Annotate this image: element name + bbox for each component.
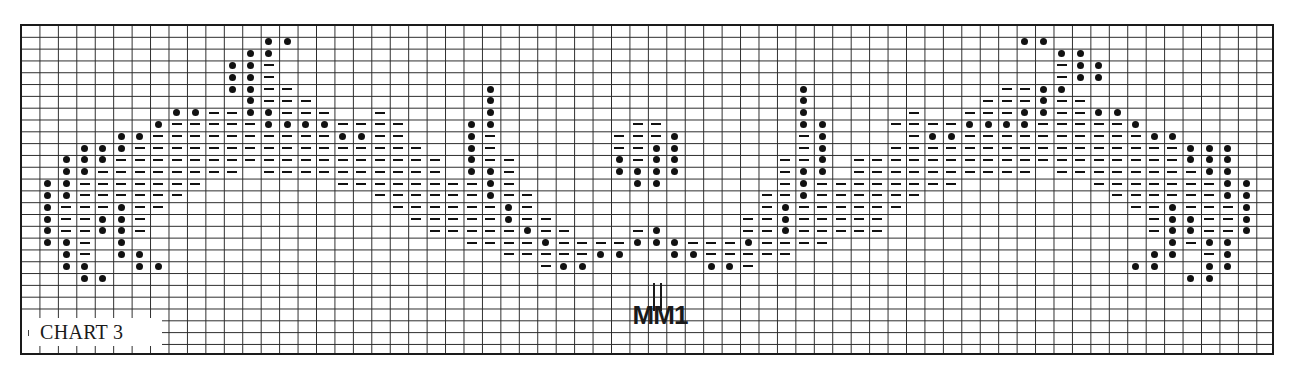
grid-cell [887, 154, 905, 166]
dash-symbol-icon [1057, 76, 1067, 78]
dash-symbol-icon [1131, 159, 1141, 161]
grid-cell [223, 59, 241, 71]
dash-symbol-icon [1057, 147, 1067, 149]
dash-symbol-icon [836, 206, 846, 208]
grid-cell [481, 213, 499, 225]
grid-cell [813, 119, 831, 131]
grid-cell [1071, 119, 1089, 131]
dash-symbol-icon [891, 194, 901, 196]
dash-symbol-icon [1020, 171, 1030, 173]
grid-cell [204, 119, 222, 131]
grid-cell [1034, 119, 1052, 131]
grid-cell [407, 213, 425, 225]
grid-cell [905, 154, 923, 166]
grid-cell [1053, 142, 1071, 154]
grid-cell [739, 225, 757, 237]
dash-symbol-icon [375, 147, 385, 149]
grid-cell [960, 119, 978, 131]
dash-symbol-icon [393, 147, 403, 149]
grid-cell [850, 213, 868, 225]
grid-cell [131, 249, 149, 261]
dash-symbol-icon [411, 147, 421, 149]
dash-symbol-icon [965, 112, 975, 114]
grid-cell [389, 201, 407, 213]
dot-symbol-icon [782, 204, 789, 211]
dot-symbol-icon [1169, 133, 1176, 140]
dash-symbol-icon [872, 159, 882, 161]
dash-symbol-icon [836, 194, 846, 196]
dot-symbol-icon [1021, 38, 1028, 45]
dash-symbol-icon [356, 183, 366, 185]
grid-cell [758, 201, 776, 213]
dot-symbol-icon [1077, 62, 1084, 69]
grid-cell [94, 154, 112, 166]
dot-symbol-icon [708, 263, 715, 270]
dash-symbol-icon [338, 147, 348, 149]
dot-symbol-icon [671, 239, 678, 246]
grid-cell [370, 107, 388, 119]
dash-symbol-icon [504, 171, 514, 173]
dash-symbol-icon [854, 206, 864, 208]
dot-symbol-icon [358, 133, 365, 140]
grid-cell [794, 225, 812, 237]
grid-cell [794, 130, 812, 142]
dot-symbol-icon [653, 227, 660, 234]
dot-symbol-icon [136, 251, 143, 258]
dash-symbol-icon [264, 100, 274, 102]
grid-cell [1219, 154, 1237, 166]
dash-symbol-icon [1149, 230, 1159, 232]
dash-symbol-icon [1223, 218, 1233, 220]
grid-cell [149, 154, 167, 166]
dash-symbol-icon [541, 230, 551, 232]
grid-cell [518, 201, 536, 213]
dash-symbol-icon [559, 230, 569, 232]
dash-symbol-icon [1094, 147, 1104, 149]
dash-symbol-icon [485, 147, 495, 149]
dash-symbol-icon [504, 159, 514, 161]
grid-cell [1071, 95, 1089, 107]
grid-cell [241, 83, 259, 95]
dot-symbol-icon [1169, 216, 1176, 223]
grid-cell [1090, 130, 1108, 142]
dash-symbol-icon [319, 171, 329, 173]
dash-symbol-icon [411, 171, 421, 173]
grid-cell [112, 201, 130, 213]
dot-symbol-icon [118, 133, 125, 140]
grid-cell [1016, 142, 1034, 154]
grid-cell [1200, 189, 1218, 201]
grid-cell [389, 119, 407, 131]
grid-cell [536, 260, 554, 272]
grid-cell [499, 178, 517, 190]
grid-cell [1126, 142, 1144, 154]
dot-symbol-icon [99, 216, 106, 223]
grid-cell [647, 142, 665, 154]
grid-cell [186, 107, 204, 119]
grid-cell [1145, 249, 1163, 261]
grid-cell [1182, 213, 1200, 225]
dash-symbol-icon [467, 206, 477, 208]
grid-cell [924, 130, 942, 142]
grid-cell [149, 119, 167, 131]
grid-cell [997, 83, 1015, 95]
grid-cell [481, 178, 499, 190]
center-marker: MM1 [620, 283, 700, 343]
dash-symbol-icon [301, 135, 311, 137]
dash-symbol-icon [245, 135, 255, 137]
dash-symbol-icon [928, 183, 938, 185]
grid-cell [555, 225, 573, 237]
dash-symbol-icon [946, 147, 956, 149]
grid-cell [38, 225, 56, 237]
grid-cell [407, 142, 425, 154]
grid-cell [536, 225, 554, 237]
dot-symbol-icon [929, 133, 936, 140]
grid-cell [997, 154, 1015, 166]
dash-symbol-icon [1002, 171, 1012, 173]
dot-symbol-icon [247, 109, 254, 116]
dash-symbol-icon [522, 194, 532, 196]
dot-symbol-icon [524, 227, 531, 234]
dash-symbol-icon [116, 171, 126, 173]
dot-symbol-icon [1169, 251, 1176, 258]
grid-cell [794, 142, 812, 154]
grid-cell [223, 142, 241, 154]
dash-symbol-icon [836, 218, 846, 220]
